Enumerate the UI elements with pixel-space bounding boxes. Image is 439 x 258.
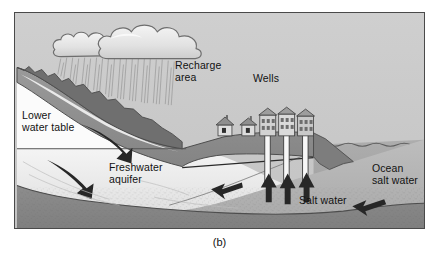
diagram-svg (15, 13, 424, 228)
label-wells: Wells (253, 73, 279, 85)
label-ocean-salt-water: Ocean salt water (372, 163, 418, 186)
wellhead-buildings (259, 107, 315, 136)
figure-caption: (b) (0, 236, 439, 248)
figure-root: Recharge area Wells Lower water table Fr… (0, 0, 439, 258)
label-salt-water: Salt water (299, 195, 347, 207)
label-recharge-area: Recharge area (175, 60, 221, 83)
label-lower-water-table: Lower water table (22, 110, 74, 133)
diagram-frame (14, 12, 425, 229)
label-freshwater-aquifer: Freshwater aquifer (109, 162, 163, 185)
